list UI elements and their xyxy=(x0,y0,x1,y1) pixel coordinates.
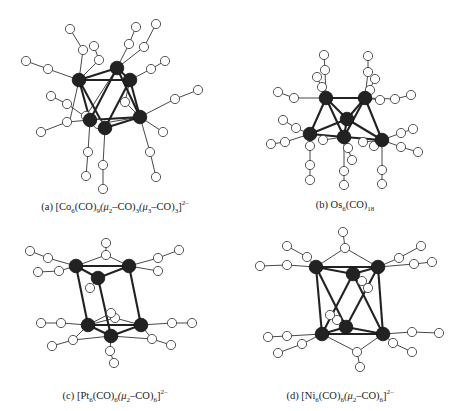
caption-b: (b) Os6(CO)18 xyxy=(316,199,375,213)
structure-b-os6 xyxy=(266,50,422,189)
caption-a-text: –CO) xyxy=(112,201,135,212)
caption-d-text: (μ xyxy=(344,390,353,401)
caption-c-text: (c) [Pt xyxy=(63,390,90,401)
caption-a-text: (μ xyxy=(139,201,148,212)
superscript: 2– xyxy=(387,388,394,396)
caption-a-text: (a) [Co xyxy=(41,201,71,212)
caption-d-text: (d) [Ni xyxy=(286,390,315,401)
caption-d: (d) [Ni6(CO)6(μ2–CO)6]2– xyxy=(286,388,393,404)
caption-a-text: –CO) xyxy=(151,201,174,212)
superscript: 2– xyxy=(160,388,167,396)
structure-c-pt6 xyxy=(25,238,196,367)
caption-a: (a) [Co6(CO)9(μ2–CO)3(μ3–CO)3]2– xyxy=(41,199,188,215)
caption-d-text: (CO) xyxy=(319,390,341,401)
caption-c-text: (CO) xyxy=(93,390,115,401)
structure-d-ni6 xyxy=(255,227,443,371)
caption-a-text: (CO) xyxy=(75,201,97,212)
caption-c: (c) [Pt6(CO)6(μ2–CO)6]2– xyxy=(63,388,168,404)
structure-a-co6 xyxy=(21,19,202,193)
caption-b-text: (b) Os xyxy=(316,199,343,210)
superscript: 2– xyxy=(182,199,189,207)
caption-b-text: (CO) xyxy=(346,199,368,210)
caption-d-text: –CO) xyxy=(356,390,379,401)
caption-c-text: (μ xyxy=(118,390,127,401)
caption-c-text: –CO) xyxy=(130,390,153,401)
subscript: 18 xyxy=(367,205,374,213)
